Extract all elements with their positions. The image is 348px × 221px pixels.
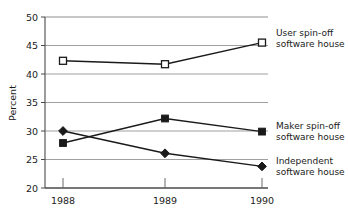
y-tick-label-25: 25 bbox=[26, 154, 38, 165]
x-tick-label-1990: 1990 bbox=[250, 195, 274, 206]
data-point-user-1988 bbox=[60, 57, 67, 64]
y-tick-label-50: 50 bbox=[26, 12, 38, 23]
data-point-maker-1989 bbox=[162, 115, 169, 122]
x-tick-label-1988: 1988 bbox=[51, 195, 75, 206]
series-label-user-line1: User spin-off bbox=[276, 28, 334, 38]
series-label-maker-spinoff: Maker spin-off software house bbox=[276, 121, 345, 142]
series-label-maker-line2: software house bbox=[276, 132, 345, 142]
y-tick-label-45: 45 bbox=[26, 40, 38, 51]
x-tick-label-1989: 1989 bbox=[153, 195, 177, 206]
y-tick-label-20: 20 bbox=[26, 183, 38, 194]
series-label-user-line2: software house bbox=[276, 39, 345, 49]
y-tick-label-40: 40 bbox=[26, 69, 38, 80]
series-label-maker-line1: Maker spin-off bbox=[276, 121, 341, 131]
y-tick-label-30: 30 bbox=[26, 126, 38, 137]
series-label-independent-line2: software house bbox=[276, 167, 345, 177]
data-point-user-1989 bbox=[162, 61, 169, 68]
data-point-user-1990 bbox=[259, 39, 266, 46]
data-point-maker-1990 bbox=[259, 128, 266, 135]
y-tick-label-35: 35 bbox=[26, 97, 38, 108]
y-axis-title: Percent bbox=[7, 85, 18, 121]
data-point-maker-1988 bbox=[60, 140, 67, 147]
chart-canvas: 50 45 40 35 30 25 20 1988 1989 1990 Perc… bbox=[0, 0, 348, 221]
series-label-independent-line1: Independent bbox=[276, 156, 334, 166]
line-chart: 50 45 40 35 30 25 20 1988 1989 1990 Perc… bbox=[0, 0, 348, 221]
